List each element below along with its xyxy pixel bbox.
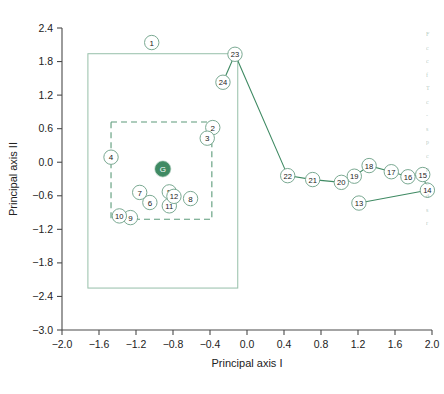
y-tick-label-1.8: 1.8 [38, 55, 53, 67]
data-point-21[interactable]: 21 [305, 172, 319, 186]
data-point-18[interactable]: 18 [362, 158, 376, 172]
x-tick-label--0.8: −0.8 [163, 338, 184, 350]
caption-line-9: c [426, 150, 444, 164]
data-point-17[interactable]: 17 [384, 165, 398, 179]
data-point-label-13: 13 [355, 199, 363, 208]
data-point-label-12: 12 [170, 192, 178, 201]
data-point-22[interactable]: 22 [281, 168, 295, 182]
y-tick-label--2.4: −2.4 [32, 290, 53, 302]
data-point-7[interactable]: 7 [133, 185, 147, 199]
y-tick-label--0.6: −0.6 [32, 189, 53, 201]
x-tick-label-2.0: 2.0 [425, 338, 440, 350]
principal-axes-scatter-figure: 2.41.81.20.60.0−0.6−1.2−1.8−2.4−3.0−2.0−… [0, 0, 444, 394]
data-point-16[interactable]: 16 [401, 170, 415, 184]
x-tick-label-0.0: 0.0 [240, 338, 255, 350]
data-point-label-18: 18 [365, 162, 373, 171]
caption-line-11: c [426, 177, 444, 191]
y-tick-label--3.0: −3.0 [32, 324, 53, 336]
caption-line-12: d [426, 190, 444, 204]
data-point-4[interactable]: 4 [104, 150, 118, 164]
data-point-label-10: 10 [115, 212, 123, 221]
data-point-label-6: 6 [148, 199, 153, 208]
caption-line-1: c [426, 42, 444, 56]
caption-line-14: r [426, 217, 444, 231]
caption-line-10: p [426, 163, 444, 177]
caption-line-6: - [426, 109, 444, 123]
x-tick-label-1.6: 1.6 [388, 338, 403, 350]
data-point-label-23: 23 [231, 50, 239, 59]
y-tick-label--1.2: −1.2 [32, 223, 53, 235]
x-tick-label--1.2: −1.2 [126, 338, 147, 350]
data-point-19[interactable]: 19 [347, 169, 361, 183]
y-tick-label-2.4: 2.4 [38, 22, 53, 34]
data-point-3[interactable]: 3 [200, 131, 214, 145]
data-point-8[interactable]: 8 [183, 191, 197, 205]
trajectory-13-to-14 [359, 190, 428, 203]
y-tick-label-0.0: 0.0 [38, 156, 53, 168]
caption-line-4: T [426, 82, 444, 96]
x-tick-label-0.4: 0.4 [277, 338, 292, 350]
x-tick-label-1.2: 1.2 [351, 338, 366, 350]
caption-line-8: p [426, 136, 444, 150]
caption-line-2: c [426, 55, 444, 69]
data-point-label-19: 19 [350, 172, 358, 181]
x-tick-label--0.4: −0.4 [200, 338, 221, 350]
data-point-label-8: 8 [188, 195, 193, 204]
data-point-label-2: 2 [211, 124, 216, 133]
caption-line-7: s [426, 123, 444, 137]
data-point-10[interactable]: 10 [112, 209, 126, 223]
data-point-12[interactable]: 12 [167, 189, 181, 203]
data-point-label-16: 16 [404, 173, 412, 182]
data-point-label-1: 1 [149, 39, 154, 48]
data-point-label-4: 4 [109, 153, 114, 162]
data-point-G[interactable]: G [155, 161, 170, 176]
data-point-23[interactable]: 23 [228, 47, 242, 61]
data-point-13[interactable]: 13 [352, 196, 366, 210]
data-point-label-G: G [160, 165, 166, 174]
data-point-20[interactable]: 20 [334, 175, 348, 189]
y-axis-title: Principal axis II [7, 142, 19, 216]
caption-line-5: c [426, 96, 444, 110]
caption-line-0: F [426, 28, 444, 42]
y-tick-label--1.8: −1.8 [32, 256, 53, 268]
y-tick-label-0.6: 0.6 [38, 122, 53, 134]
cropped-caption-text: FccfTc-spcpcdsr [426, 28, 444, 258]
caption-line-13: s [426, 204, 444, 218]
caption-line-3: f [426, 69, 444, 83]
data-point-1[interactable]: 1 [145, 35, 159, 49]
data-point-label-21: 21 [308, 176, 316, 185]
data-point-label-22: 22 [283, 172, 291, 181]
data-point-label-20: 20 [337, 178, 345, 187]
data-point-label-17: 17 [387, 168, 395, 177]
x-axis-title: Principal axis I [212, 357, 283, 369]
x-tick-label-0.8: 0.8 [314, 338, 329, 350]
data-point-label-24: 24 [219, 78, 227, 87]
data-point-label-3: 3 [205, 134, 210, 143]
x-tick-label--1.6: −1.6 [89, 338, 110, 350]
x-tick-label--2.0: −2.0 [52, 338, 73, 350]
y-tick-label-1.2: 1.2 [38, 89, 53, 101]
data-point-label-9: 9 [128, 214, 133, 223]
data-point-24[interactable]: 24 [216, 75, 230, 89]
data-point-label-7: 7 [137, 189, 142, 198]
